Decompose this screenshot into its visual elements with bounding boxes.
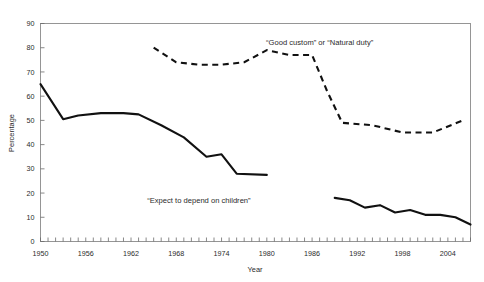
y-tick-label: 30 bbox=[27, 164, 35, 173]
x-tick-label: 1998 bbox=[395, 249, 411, 258]
y-tick-label: 10 bbox=[27, 213, 35, 222]
x-tick-label: 1956 bbox=[78, 249, 94, 258]
x-tick-label: 1986 bbox=[304, 249, 320, 258]
x-axis-tick-labels: 1950195619621968197419801986199219982004 bbox=[33, 249, 456, 258]
y-tick-label: 0 bbox=[31, 237, 35, 246]
series-lines bbox=[41, 48, 471, 225]
good-custom-label: “Good custom” or “Natural duty” bbox=[266, 38, 374, 47]
x-axis-title: Year bbox=[248, 265, 263, 274]
y-tick-label: 50 bbox=[27, 116, 35, 125]
x-tick-label: 2004 bbox=[440, 249, 456, 258]
y-axis-title: Percentage bbox=[7, 114, 16, 152]
x-tick-label: 1968 bbox=[168, 249, 184, 258]
x-axis-minor-ticks bbox=[41, 238, 471, 242]
line-chart: 0102030405060708090 19501956196219681974… bbox=[0, 0, 484, 282]
x-tick-label: 1980 bbox=[259, 249, 275, 258]
x-tick-label: 1950 bbox=[33, 249, 49, 258]
expect-depend-label: “Expect to depend on children” bbox=[147, 196, 251, 205]
series-line-solid bbox=[335, 198, 471, 225]
series-line-dashed bbox=[154, 48, 463, 133]
x-tick-label: 1992 bbox=[349, 249, 365, 258]
y-tick-label: 90 bbox=[27, 19, 35, 28]
y-tick-label: 80 bbox=[27, 43, 35, 52]
y-tick-label: 60 bbox=[27, 92, 35, 101]
figure-container: 0102030405060708090 19501956196219681974… bbox=[0, 0, 484, 282]
x-tick-label: 1962 bbox=[123, 249, 139, 258]
x-tick-label: 1974 bbox=[214, 249, 230, 258]
series-line-solid bbox=[41, 84, 267, 175]
y-tick-label: 70 bbox=[27, 68, 35, 77]
y-tick-label: 20 bbox=[27, 189, 35, 198]
cropped-header-text bbox=[0, 0, 484, 8]
y-axis-tick-labels: 0102030405060708090 bbox=[27, 19, 35, 246]
y-axis-ticks bbox=[41, 24, 45, 242]
y-tick-label: 40 bbox=[27, 140, 35, 149]
